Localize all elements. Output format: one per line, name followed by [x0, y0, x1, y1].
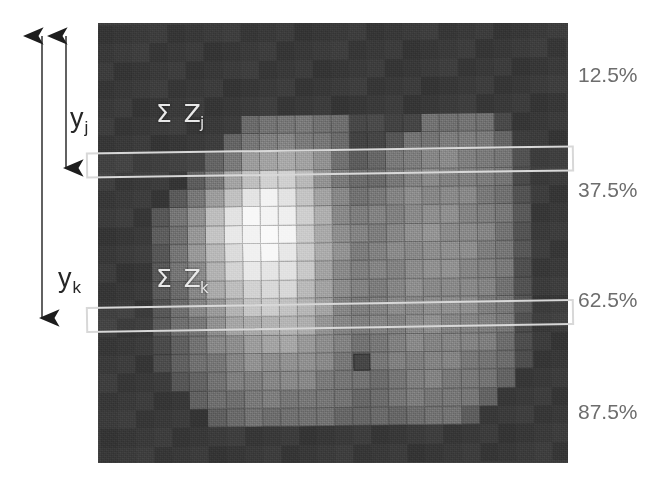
dose-cell: [408, 444, 426, 463]
dose-cell: [385, 59, 403, 78]
dose-cell: [208, 409, 226, 428]
dose-cell: [277, 97, 295, 116]
dose-cell: [516, 442, 534, 461]
dose-cell: [352, 279, 370, 298]
dose-cell: [389, 407, 407, 426]
dose-cell: [441, 223, 459, 242]
dose-cell: [154, 355, 172, 374]
dose-cell: [152, 208, 170, 227]
dose-cell: [405, 224, 423, 243]
dose-cell: [150, 80, 168, 99]
dose-cell: [462, 425, 480, 444]
dose-cell: [312, 41, 330, 60]
dose-cell: [512, 112, 530, 131]
dose-cell: [388, 334, 406, 353]
dose-cell: [132, 99, 150, 118]
dose-cell: [515, 351, 533, 370]
dose-cell: [331, 59, 349, 78]
dose-cell: [209, 428, 227, 447]
dose-cell: [530, 75, 548, 94]
dose-cell: [98, 191, 116, 210]
dose-cell: [150, 25, 168, 44]
dose-cell: [495, 204, 513, 223]
dose-cell: [277, 78, 295, 97]
dose-cell: [530, 57, 548, 76]
dose-cell: [244, 391, 262, 410]
dose-cell: [494, 94, 512, 113]
dose-cell: [172, 355, 190, 374]
dose-cell: [315, 261, 333, 280]
dose-cell: [205, 98, 223, 117]
dose-cell: [532, 259, 550, 278]
dose-cell: [150, 43, 168, 62]
dose-cell: [441, 205, 459, 224]
dose-cell: [242, 207, 260, 226]
dose-cell: [186, 80, 204, 99]
dose-cell: [100, 374, 118, 393]
dose-cell: [117, 282, 135, 301]
dose-cell: [389, 425, 407, 444]
dose-cell: [314, 206, 332, 225]
dose-cell: [263, 427, 281, 446]
dose-cell: [116, 264, 134, 283]
dose-cell: [497, 332, 515, 351]
sum-z-k-subscript: k: [200, 279, 209, 297]
profile-band-j-fill: [88, 147, 572, 176]
dose-cell: [534, 405, 552, 424]
dose-cell: [152, 190, 170, 209]
dose-cell: [136, 392, 154, 411]
dose-cell: [295, 115, 313, 134]
dose-cell: [222, 61, 240, 80]
dose-cell: [222, 42, 240, 61]
dose-cell: [295, 60, 313, 79]
dose-cell: [333, 206, 351, 225]
dose-cell: [263, 445, 281, 463]
dose-cell: [243, 244, 261, 263]
dose-cell: [224, 207, 242, 226]
dose-cell: [353, 408, 371, 427]
dose-cell: [294, 42, 312, 61]
dose-cell: [444, 443, 462, 462]
dose-cell: [353, 426, 371, 445]
dose-cell: [552, 387, 568, 406]
dose-cell: [259, 79, 277, 98]
dose-cell: [529, 39, 547, 58]
dose-cell: [136, 429, 154, 448]
dose-cell: [240, 24, 258, 43]
dose-cell: [260, 189, 278, 208]
dose-cell: [240, 61, 258, 80]
dose-cell: [314, 188, 332, 207]
dose-cell: [170, 190, 188, 209]
dose-cell: [117, 337, 135, 356]
dose-cell: [511, 23, 529, 39]
dose-cell: [242, 189, 260, 208]
dose-cell: [298, 372, 316, 391]
dose-cell: [154, 392, 172, 411]
dose-cell: [349, 114, 367, 133]
dose-cell: [226, 354, 244, 373]
sum-z-j-subscript: j: [200, 114, 204, 132]
dose-cell: [335, 389, 353, 408]
dose-cell: [172, 391, 190, 410]
dose-cell: [423, 223, 441, 242]
dose-cell: [475, 39, 493, 58]
dose-cell: [276, 23, 294, 42]
dose-cell: [476, 76, 494, 95]
dose-cell: [478, 259, 496, 278]
dose-cell: [480, 424, 498, 443]
image-tilt-wrapper: [98, 23, 568, 463]
dose-cell: [100, 429, 118, 448]
dose-cell: [443, 388, 461, 407]
dose-cell: [317, 408, 335, 427]
dose-cell: [552, 405, 568, 424]
dose-cell: [547, 38, 565, 57]
dose-cell: [190, 391, 208, 410]
dose-cell: [460, 260, 478, 279]
dose-cell: [424, 278, 442, 297]
dose-cell: [514, 222, 532, 241]
dose-cell: [457, 40, 475, 59]
dose-cell: [260, 225, 278, 244]
dose-cell: [171, 336, 189, 355]
dose-cell: [458, 95, 476, 114]
dose-cell: [480, 443, 498, 462]
